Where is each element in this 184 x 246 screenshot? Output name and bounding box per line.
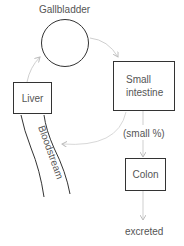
bloodstream-label: Bloodstream <box>36 124 66 181</box>
gallbladder-circle <box>42 20 89 67</box>
small-percent-label: (small %) <box>123 128 165 139</box>
diagram-canvas: Bloodstream <box>0 0 184 246</box>
gallbladder-label: Gallbladder <box>39 4 90 15</box>
small-intestine-box: Small intestine <box>113 61 175 111</box>
liver-label: Liver <box>22 92 44 105</box>
arrow-intestine-to-bloodstream <box>62 112 126 144</box>
excreted-label: excreted <box>125 226 163 237</box>
arrow-gallbladder-to-intestine <box>90 38 118 57</box>
colon-box: Colon <box>125 158 166 191</box>
small-intestine-label: Small intestine <box>126 73 163 99</box>
liver-box: Liver <box>13 82 52 114</box>
colon-label: Colon <box>132 168 158 181</box>
arrow-liver-to-gallbladder <box>27 57 40 82</box>
